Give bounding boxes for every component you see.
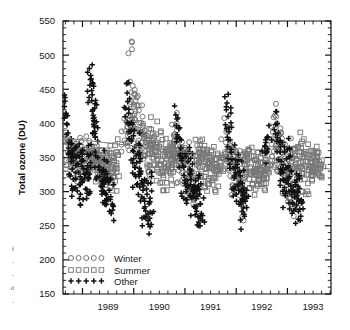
y-tick-label: 200	[39, 254, 55, 265]
data-point-summer	[76, 268, 81, 273]
data-point-other	[274, 109, 279, 114]
data-point-winter	[273, 101, 278, 106]
ozone-scatter-figure: f - - d . 150200250300350400450500550 19…	[0, 0, 350, 330]
data-point-summer	[155, 119, 160, 124]
data-point-other	[238, 226, 243, 231]
data-point-other	[69, 194, 74, 199]
data-point-other	[188, 213, 193, 218]
x-tick-label: 1991	[200, 301, 221, 312]
data-point-winter	[191, 201, 196, 206]
data-point-other	[90, 62, 95, 67]
data-point-summer	[306, 142, 311, 147]
data-point-other	[140, 223, 145, 228]
data-point-other	[76, 278, 81, 283]
data-point-other	[146, 231, 151, 236]
data-point-winter	[219, 137, 224, 142]
data-point-other	[78, 192, 83, 197]
data-point-other	[224, 104, 229, 109]
y-tick-label: 250	[39, 220, 55, 231]
data-point-summer	[193, 137, 198, 142]
y-axis-title: Total ozone (DU)	[16, 120, 27, 195]
data-point-other	[84, 196, 89, 201]
data-point-winter	[132, 87, 137, 92]
data-point-other	[78, 202, 83, 207]
x-tick-label: 1993	[302, 301, 323, 312]
legend-label-other: Other	[114, 276, 138, 287]
data-point-winter	[99, 256, 104, 261]
y-tick-label: 150	[39, 288, 55, 299]
data-point-winter	[130, 47, 135, 52]
y-tick-label: 400	[39, 118, 55, 129]
data-point-other	[142, 198, 147, 203]
data-point-winter	[84, 256, 89, 261]
legend-label-winter: Winter	[114, 253, 141, 264]
x-axis-tick-labels: 19891990199119921993	[98, 301, 324, 312]
data-point-summer	[149, 115, 154, 120]
data-point-summer	[252, 193, 257, 198]
data-point-other	[144, 186, 149, 191]
data-point-other	[149, 188, 154, 193]
data-point-summer	[108, 143, 113, 148]
data-point-other	[144, 192, 149, 197]
data-point-other	[84, 278, 89, 283]
data-point-winter	[91, 256, 96, 261]
chart-canvas: 150200250300350400450500550 198919901991…	[0, 0, 350, 330]
x-tick-label: 1990	[149, 301, 170, 312]
data-point-other	[91, 278, 96, 283]
data-point-winter	[84, 134, 89, 139]
data-point-other	[90, 92, 95, 97]
data-point-summer	[314, 144, 319, 149]
y-tick-label: 450	[39, 84, 55, 95]
data-point-winter	[140, 114, 145, 119]
y-axis-title-text: Total ozone (DU)	[16, 120, 27, 195]
data-point-other	[225, 114, 230, 119]
x-tick-label: 1989	[98, 301, 119, 312]
data-point-other	[111, 218, 116, 223]
data-point-other	[228, 110, 233, 115]
data-point-other	[64, 121, 69, 126]
data-point-other	[280, 205, 285, 210]
data-point-other	[77, 196, 82, 201]
data-point-other	[172, 103, 177, 108]
y-tick-label: 550	[39, 15, 55, 26]
data-point-summer	[298, 130, 303, 135]
data-point-winter	[136, 108, 141, 113]
y-tick-label: 350	[39, 152, 55, 163]
data-point-summer	[69, 268, 74, 273]
legend-label-summer: Summer	[114, 265, 150, 276]
data-point-other	[147, 195, 152, 200]
data-point-summer	[92, 268, 97, 273]
y-tick-label: 500	[39, 50, 55, 61]
y-tick-label: 300	[39, 186, 55, 197]
data-point-other	[68, 278, 73, 283]
data-point-winter	[187, 140, 192, 145]
y-axis-tick-labels: 150200250300350400450500550	[39, 15, 55, 299]
data-point-winter	[76, 256, 81, 261]
x-tick-label: 1992	[251, 301, 272, 312]
data-point-other	[201, 195, 206, 200]
data-point-summer	[84, 268, 89, 273]
data-point-other	[86, 95, 91, 100]
data-point-other	[80, 197, 85, 202]
data-point-summer	[169, 177, 174, 182]
data-point-summer	[208, 171, 213, 176]
data-point-summer	[115, 137, 120, 142]
data-point-other	[99, 278, 104, 283]
chart-legend: WinterSummerOther	[68, 253, 150, 287]
data-point-summer	[99, 268, 104, 273]
data-point-winter	[69, 256, 74, 261]
data-point-other	[293, 221, 298, 226]
data-point-other	[300, 206, 305, 211]
data-point-winter	[126, 51, 131, 56]
